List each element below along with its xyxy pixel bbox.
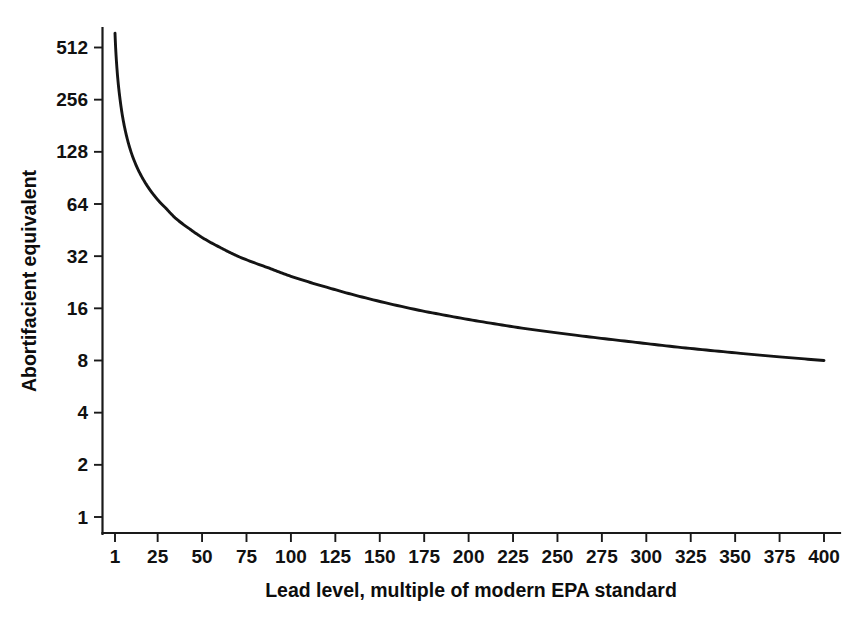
y-tick-label: 512 <box>56 37 88 58</box>
y-tick-label: 2 <box>77 454 88 475</box>
x-tick-label: 125 <box>319 546 351 567</box>
x-tick-label: 375 <box>764 546 796 567</box>
y-tick-label: 256 <box>56 89 88 110</box>
y-tick-marks <box>94 48 103 518</box>
x-tick-labels: 1255075100125150175200225250275300325350… <box>110 546 840 567</box>
y-tick-label: 4 <box>77 402 88 423</box>
x-tick-label: 50 <box>191 546 212 567</box>
y-tick-label: 1 <box>77 507 88 528</box>
chart-page: 1248163264128256512 12550751001251501752… <box>0 0 865 621</box>
x-tick-label: 75 <box>236 546 258 567</box>
y-axis-group: 1248163264128256512 <box>56 28 102 534</box>
y-tick-label: 64 <box>67 194 89 215</box>
x-axis-group: 1255075100125150175200225250275300325350… <box>103 533 841 567</box>
x-tick-label: 25 <box>147 546 169 567</box>
x-tick-marks <box>115 533 824 542</box>
x-tick-label: 200 <box>453 546 485 567</box>
x-tick-label: 175 <box>408 546 440 567</box>
y-tick-label: 32 <box>67 246 88 267</box>
x-tick-label: 400 <box>808 546 840 567</box>
y-tick-labels: 1248163264128256512 <box>56 37 88 528</box>
x-tick-label: 225 <box>497 546 529 567</box>
x-tick-label: 250 <box>542 546 574 567</box>
x-tick-label: 100 <box>275 546 307 567</box>
x-tick-label: 300 <box>630 546 662 567</box>
x-tick-label: 1 <box>110 546 121 567</box>
x-tick-label: 150 <box>364 546 396 567</box>
x-tick-label: 350 <box>719 546 751 567</box>
x-tick-label: 275 <box>586 546 618 567</box>
y-tick-label: 8 <box>77 350 88 371</box>
y-tick-label: 128 <box>56 141 88 162</box>
data-series-line <box>115 33 824 360</box>
y-axis-title: Abortifacient equivalent <box>18 169 40 392</box>
y-tick-label: 16 <box>67 298 88 319</box>
x-axis-title: Lead level, multiple of modern EPA stand… <box>265 579 677 601</box>
chart-canvas: 1248163264128256512 12550751001251501752… <box>0 0 865 621</box>
x-tick-label: 325 <box>675 546 707 567</box>
